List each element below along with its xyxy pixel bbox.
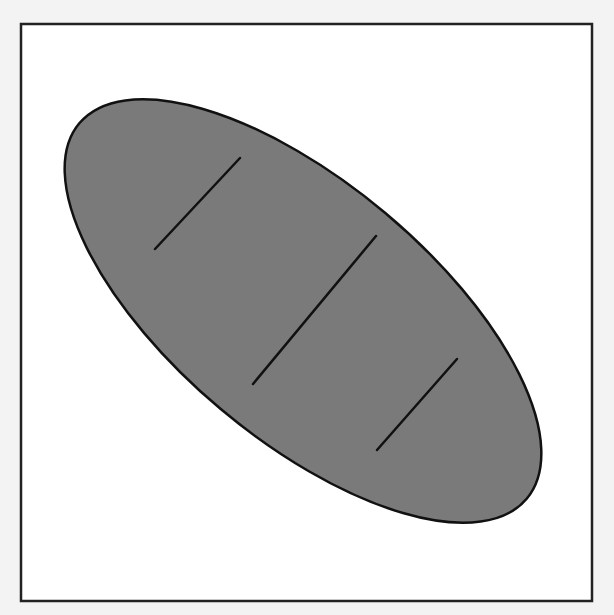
bread-loaf-icon <box>0 0 614 615</box>
figure-canvas <box>0 0 614 615</box>
